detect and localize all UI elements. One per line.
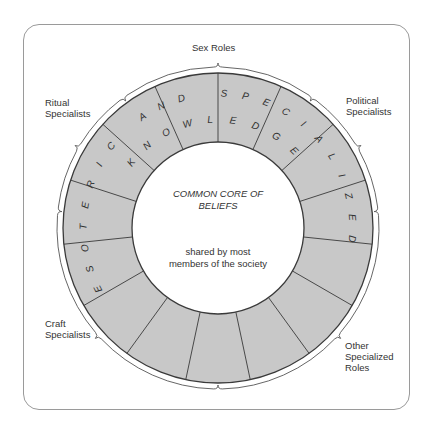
core-beliefs-title: COMMON CORE OF BELIEFS	[138, 188, 298, 211]
ring-letter: T	[78, 223, 89, 230]
label-text: Political	[346, 95, 391, 106]
label-text: Ritual	[45, 97, 90, 108]
label-text: Craft	[45, 318, 90, 329]
label-text: Other	[345, 340, 394, 351]
label-text: Roles	[345, 362, 394, 373]
ring-letter: L	[207, 114, 213, 125]
core-beliefs-subtitle: shared by most members of the society	[128, 246, 308, 269]
label-text: Sex Roles	[192, 42, 235, 53]
core-title-line: BELIEFS	[138, 200, 298, 212]
core-circle	[132, 142, 304, 314]
core-subtitle-line: members of the society	[128, 258, 308, 270]
ring-letter: E	[347, 213, 359, 221]
label-text: Specialists	[346, 106, 391, 117]
label-craft-specialists: Craft Specialists	[45, 318, 90, 340]
label-political-specialists: Political Specialists	[346, 95, 391, 117]
ring-letter: D	[347, 235, 359, 243]
core-subtitle-line: shared by most	[128, 246, 308, 258]
label-text: Specialists	[45, 108, 90, 119]
label-other-specialized-roles: Other Specialized Roles	[345, 340, 394, 373]
label-sex-roles: Sex Roles	[192, 42, 235, 53]
label-text: Specialized	[345, 351, 394, 362]
label-text: Specialists	[45, 329, 90, 340]
core-title-line: COMMON CORE OF	[138, 188, 298, 200]
ring-letter: S	[221, 88, 228, 99]
label-ritual-specialists: Ritual Specialists	[45, 97, 90, 119]
